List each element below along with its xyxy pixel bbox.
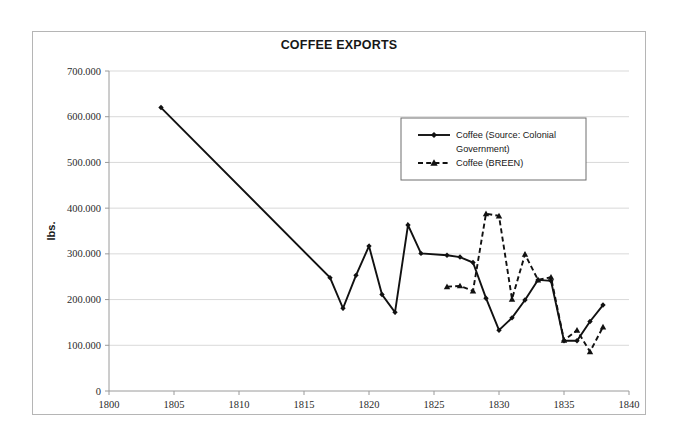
data-point-marker-triangle: [574, 327, 580, 333]
y-axis-title-text: lbs.: [45, 222, 57, 241]
data-point-marker-triangle: [600, 324, 606, 330]
y-axis-tick-label: 400.000: [67, 203, 101, 214]
x-axis-tick-label: 1820: [359, 399, 380, 410]
x-axis-tick-label: 1810: [229, 399, 250, 410]
y-axis-tick-label: 300.000: [67, 248, 101, 259]
y-axis-tick-label: 600.000: [67, 111, 101, 122]
series-line: [447, 214, 603, 352]
x-axis-tick-label: 1825: [424, 399, 445, 410]
y-axis-tick-label: 500.000: [67, 157, 101, 168]
x-axis-tick-label: 1830: [489, 399, 510, 410]
y-axis-tick-label: 0: [96, 386, 101, 397]
gridlines: [109, 71, 629, 345]
y-axis-tick-labels: 0100.000200.000300.000400.000500.000600.…: [67, 66, 109, 397]
y-axis-tick-label: 700.000: [67, 66, 101, 77]
y-axis-title: lbs.: [45, 222, 57, 241]
data-point-marker-diamond: [444, 253, 449, 258]
x-axis-tick-label: 1840: [619, 399, 640, 410]
x-axis-tick-label: 1815: [294, 399, 315, 410]
data-point-marker-diamond: [457, 254, 462, 259]
chart-frame: COFFEE EXPORTS 0100.000200.000300.000400…: [32, 31, 646, 415]
x-axis-tick-label: 1800: [99, 399, 120, 410]
data-point-marker-diamond: [483, 296, 488, 301]
y-axis-tick-label: 200.000: [67, 294, 101, 305]
data-point-marker-triangle: [509, 296, 515, 302]
data-point-marker-diamond: [470, 260, 475, 265]
chart-legend[interactable]: Coffee (Source: ColonialGovernment)Coffe…: [401, 118, 586, 180]
legend-label: Coffee (BREEN): [456, 158, 523, 168]
data-point-marker-diamond: [366, 243, 371, 248]
chart-plot-area: 0100.000200.000300.000400.000500.000600.…: [33, 32, 645, 414]
data-point-marker-diamond: [340, 306, 345, 311]
data-point-marker-diamond: [353, 273, 358, 278]
legend-label-line2: Government): [456, 144, 510, 154]
x-axis-tick-labels: 180018051810181518201825183018351840: [99, 391, 640, 410]
legend-label: Coffee (Source: Colonial: [456, 130, 556, 140]
y-axis-tick-label: 100.000: [67, 340, 101, 351]
x-axis-tick-label: 1805: [164, 399, 185, 410]
x-axis-tick-label: 1835: [554, 399, 575, 410]
